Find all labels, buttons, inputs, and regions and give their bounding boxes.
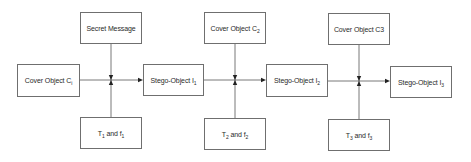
- stego-object-i3-box: Stego-Object I3: [390, 66, 452, 98]
- t2-and-f2-box: T2 and f2: [204, 118, 266, 150]
- arrow-down-icon: [233, 75, 237, 80]
- arrow-down-icon: [109, 75, 113, 80]
- node-label: Stego-Object I3: [398, 79, 444, 86]
- node-label: Cover Object C3: [334, 26, 384, 33]
- node-label: Secret Message: [86, 25, 135, 32]
- node-label: Stego-Object I2: [274, 77, 320, 84]
- cover-object-c3-box: Cover Object C3: [328, 13, 390, 45]
- arrow-down-icon: [357, 76, 361, 81]
- steganography-flow-diagram: Cover Object Ci Secret Message T1 and f1…: [0, 0, 471, 162]
- arrow-up-icon: [233, 80, 237, 85]
- cover-object-c1-box: Cover Object Ci: [17, 64, 80, 97]
- node-label: Cover Object Ci: [25, 77, 72, 84]
- stego-object-i2-box: Stego-Object I2: [266, 64, 328, 97]
- node-label: T3 and f3: [346, 132, 372, 139]
- node-label: Cover Object C2: [210, 25, 259, 32]
- cover-object-c2-box: Cover Object C2: [204, 12, 266, 44]
- node-label: T1 and f1: [98, 130, 124, 137]
- node-label: T2 and f2: [222, 131, 248, 138]
- t3-and-f3-box: T3 and f3: [328, 119, 390, 151]
- secret-message-box: Secret Message: [80, 12, 142, 44]
- node-label: Stego-Object I1: [150, 77, 196, 84]
- arrow-up-icon: [357, 81, 361, 86]
- arrow-up-icon: [109, 80, 113, 85]
- stego-object-i1-box: Stego-Object I1: [143, 64, 204, 96]
- t1-and-f1-box: T1 and f1: [80, 117, 142, 149]
